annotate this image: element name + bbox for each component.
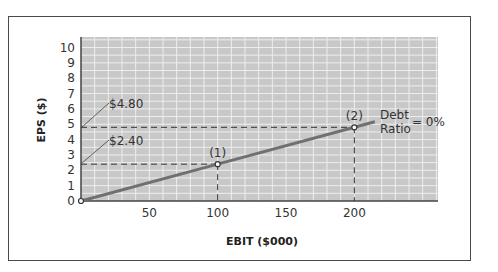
point-label: (1) xyxy=(209,146,226,160)
y-tick: 1 xyxy=(67,179,75,193)
y-tick: 6 xyxy=(67,102,75,116)
y-tick: 3 xyxy=(67,148,75,162)
annotation-480: $4.80 xyxy=(109,97,143,111)
series-label-debt: Debt xyxy=(380,108,409,122)
y-tick: 7 xyxy=(67,87,75,101)
data-point xyxy=(215,162,220,167)
y-tick: 9 xyxy=(67,56,75,70)
y-tick: 5 xyxy=(67,117,75,131)
y-tick-labels: 012345678910 xyxy=(60,41,75,209)
y-axis-title: EPS ($) xyxy=(35,97,48,142)
x-tick: 200 xyxy=(343,206,366,220)
eps-ebit-chart: 012345678910 50100150200 (1)(2) $4.80 $2… xyxy=(0,0,498,272)
y-tick: 4 xyxy=(67,133,75,147)
y-tick: 8 xyxy=(67,71,75,85)
y-tick: 10 xyxy=(60,41,75,55)
x-tick: 50 xyxy=(142,206,157,220)
x-tick: 100 xyxy=(206,206,229,220)
point-label: (2) xyxy=(346,109,363,123)
origin-point xyxy=(79,199,84,204)
series-label-value: = 0% xyxy=(412,115,445,129)
y-tick: 2 xyxy=(67,163,75,177)
x-tick: 150 xyxy=(275,206,298,220)
y-tick: 0 xyxy=(67,194,75,208)
x-tick-labels: 50100150200 xyxy=(142,206,366,220)
data-point xyxy=(352,125,357,130)
series-label-ratio: Ratio xyxy=(380,122,411,136)
x-axis-title: EBIT ($000) xyxy=(226,235,298,248)
annotation-240: $2.40 xyxy=(109,134,143,148)
